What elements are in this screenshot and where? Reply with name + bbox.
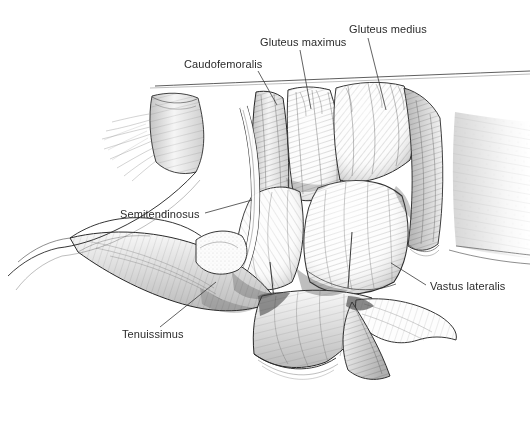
label-gluteus-medius: Gluteus medius xyxy=(349,23,427,35)
label-caudofemoralis: Caudofemoralis xyxy=(184,58,263,70)
vastus-lateralis-muscle xyxy=(304,180,408,294)
greater-trochanter xyxy=(196,231,247,274)
label-vastus-lateralis: Vastus lateralis xyxy=(430,280,506,292)
label-gluteus-maximus: Gluteus maximus xyxy=(260,36,347,48)
anatomical-illustration-figure: Caudofemoralis Gluteus maximus Gluteus m… xyxy=(0,0,530,421)
fascia-flap-right xyxy=(449,112,530,264)
label-tenuissimus: Tenuissimus xyxy=(122,328,184,340)
illustration-canvas: Caudofemoralis Gluteus maximus Gluteus m… xyxy=(0,0,530,421)
label-semitendinosus: Semitendinosus xyxy=(120,208,200,220)
